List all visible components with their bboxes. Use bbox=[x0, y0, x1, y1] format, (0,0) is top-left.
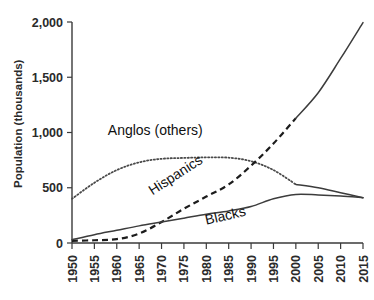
x-axis-tick-label: 1980 bbox=[200, 255, 214, 283]
y-axis-ticks bbox=[67, 22, 72, 243]
y-axis-tick-label: 0 bbox=[56, 237, 63, 251]
x-axis-ticks bbox=[72, 243, 363, 249]
x-axis-tick-labels: 1950195519601965197019751980198519901995… bbox=[66, 255, 371, 283]
x-axis-tick-label: 1960 bbox=[110, 255, 124, 283]
x-axis-tick-label: 1970 bbox=[155, 255, 169, 283]
x-axis-tick-label: 2000 bbox=[289, 255, 303, 283]
x-axis-tick-label: 2015 bbox=[357, 255, 371, 283]
y-axis-title: Population (thousands) bbox=[12, 59, 24, 188]
series-annotation-anglos-others: Anglos (others) bbox=[108, 122, 203, 138]
y-axis-tick-label: 1,500 bbox=[32, 71, 63, 85]
x-axis-tick-label: 1990 bbox=[245, 255, 259, 283]
series-annotation-blacks: Blacks bbox=[203, 203, 247, 228]
x-axis-tick-label: 1955 bbox=[88, 255, 102, 283]
series-line-hispanics-tail bbox=[296, 23, 363, 119]
x-axis-tick-label: 2005 bbox=[312, 255, 326, 283]
x-axis-tick-label: 1975 bbox=[177, 255, 191, 283]
x-axis-tick-label: 1995 bbox=[267, 255, 281, 283]
x-axis-tick-label: 1965 bbox=[133, 255, 147, 283]
y-axis-tick-label: 1,000 bbox=[32, 126, 63, 140]
y-axis-tick-label: 2,000 bbox=[32, 16, 63, 30]
y-axis-tick-label: 500 bbox=[42, 181, 63, 195]
y-axis-tick-labels: 05001,0001,5002,000 bbox=[32, 16, 63, 251]
chart-canvas: 05001,0001,5002,000 19501955196019651970… bbox=[0, 0, 374, 300]
x-axis-tick-label: 2010 bbox=[334, 255, 348, 283]
population-line-chart: 05001,0001,5002,000 19501955196019651970… bbox=[0, 0, 374, 300]
x-axis-tick-label: 1985 bbox=[222, 255, 236, 283]
x-axis-tick-label: 1950 bbox=[66, 255, 80, 283]
